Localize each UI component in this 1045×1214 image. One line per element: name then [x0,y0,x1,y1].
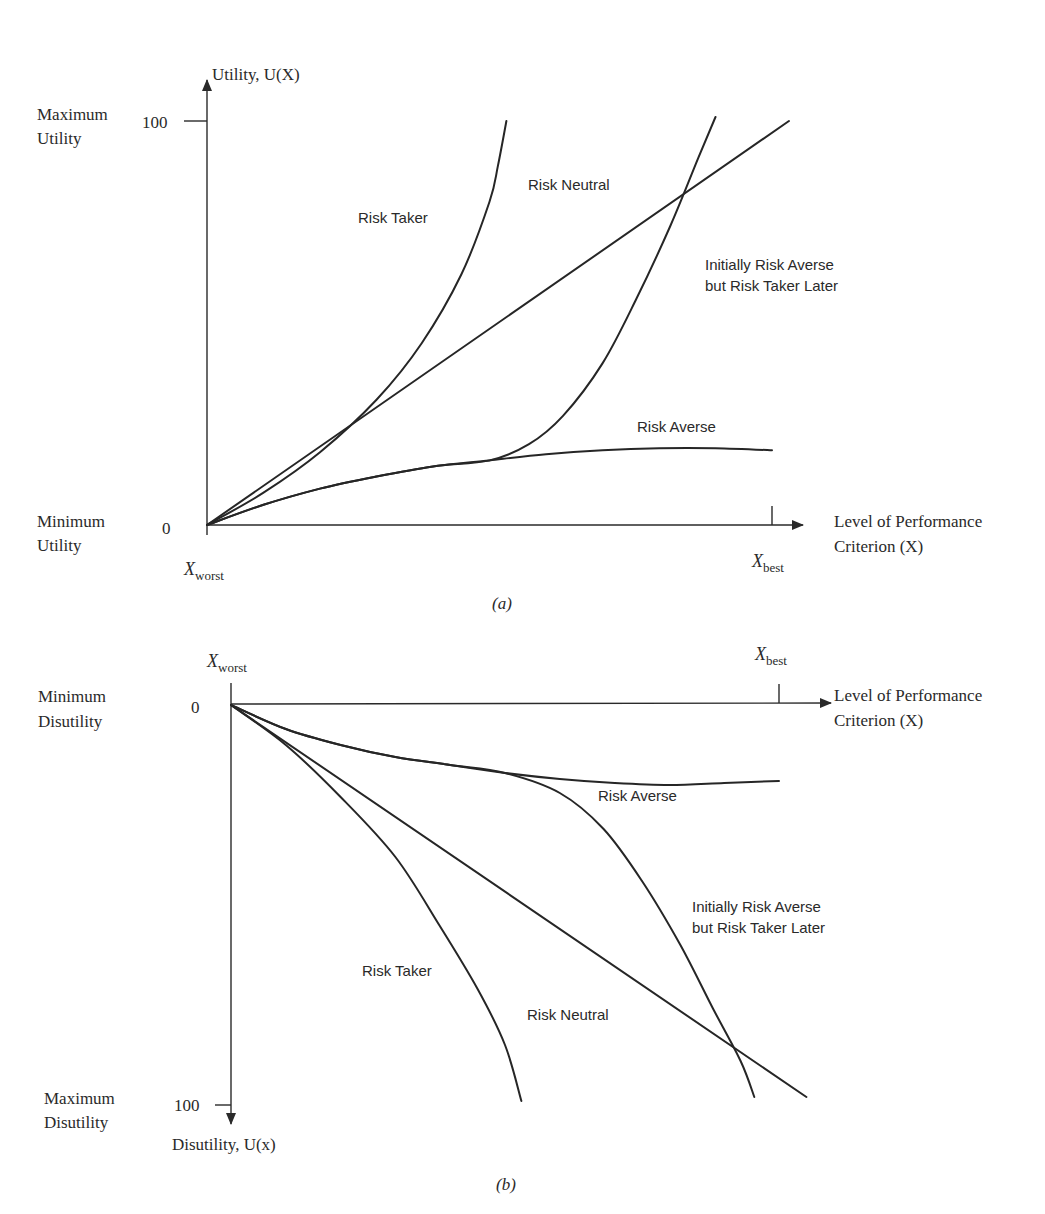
panel-a-y-axis-title: Utility, U(X) [212,65,300,84]
panel-b-curve-risk-taker [231,705,521,1101]
panel-b-y-tick-label-0: 0 [191,698,200,717]
panel-b-min-disutility-label: Minimum Disutility [38,687,110,731]
panel-b-x-worst-label: Xworst [206,651,247,675]
panel-a-min-utility-label: Minimum Utility [37,512,109,555]
panel-a-curve-risk-neutral [207,121,789,525]
panel-a-max-utility-label: Maximum Utility [37,105,112,148]
panel-a-label-initially-risk-averse: Initially Risk Averse but Risk Taker Lat… [705,256,838,294]
panel-a-utility-chart: Utility, U(X) Maximum Utility 100 Minimu… [37,65,986,613]
panel-b-x-axis [231,703,831,704]
panel-b-x-best-label: Xbest [754,644,787,668]
panel-b-disutility-chart: Xworst Xbest Minimum Disutility 0 Level … [38,644,986,1194]
panel-b-x-axis-title: Level of Performance Criterion (X) [834,686,986,730]
panel-b-label-initially-risk-averse: Initially Risk Averse but Risk Taker Lat… [692,898,825,936]
panel-a-x-best-label: Xbest [751,551,784,575]
panel-b-y-axis-title: Disutility, U(x) [172,1135,276,1154]
panel-a-label-risk-taker: Risk Taker [358,209,428,226]
panel-a-y-tick-label-0: 0 [162,519,171,538]
panel-a-label-risk-neutral: Risk Neutral [528,176,610,193]
panel-a-caption: (a) [492,594,512,613]
panel-b-label-risk-averse: Risk Averse [598,787,677,804]
utility-disutility-figure: Utility, U(X) Maximum Utility 100 Minimu… [0,0,1045,1214]
panel-b-y-tick-label-100: 100 [174,1096,200,1115]
panel-a-x-worst-label: Xworst [183,559,224,583]
panel-b-label-risk-taker: Risk Taker [362,962,432,979]
panel-a-curve-initially-risk-averse-but-risk-taker-later [207,117,716,525]
panel-a-y-tick-label-100: 100 [142,113,168,132]
panel-b-label-risk-neutral: Risk Neutral [527,1006,609,1023]
panel-b-curve-initially-risk-averse-but-risk-taker-later [231,705,754,1097]
panel-b-max-disutility-label: Maximum Disutility [44,1089,119,1132]
panel-a-label-risk-averse: Risk Averse [637,418,716,435]
panel-a-x-axis-title: Level of Performance Criterion (X) [834,512,986,556]
panel-b-caption: (b) [496,1175,516,1194]
panel-a-curves [207,117,789,525]
